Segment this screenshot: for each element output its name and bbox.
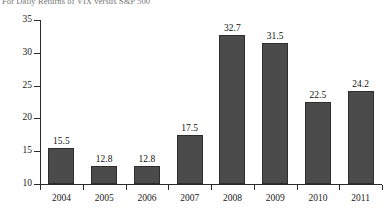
x-axis-tick-label: 2008 [211,193,253,203]
y-axis-tick-label: 25 [6,81,32,91]
y-axis-tick-label: 20 [6,113,32,123]
y-axis-line [40,20,41,185]
bar [91,166,117,184]
bar-value-label: 32.7 [212,23,252,33]
x-axis-tick [254,185,255,190]
y-axis-tick-label: 30 [6,48,32,58]
bar-value-label: 24.2 [341,79,381,89]
x-axis-tick [126,185,127,190]
x-axis-tick [382,185,383,190]
x-axis-tick-label: 2006 [126,193,168,203]
x-axis-tick [40,185,41,190]
bar [262,43,288,184]
y-axis-tick [34,118,40,119]
x-axis-tick [168,185,169,190]
x-axis-tick-label: 2010 [297,193,339,203]
bar-value-label: 22.5 [298,90,338,100]
x-axis-tick-label: 2004 [40,193,82,203]
bar [177,135,203,184]
x-axis-tick-label: 2005 [83,193,125,203]
x-axis-tick [339,185,340,190]
x-axis-tick-label: 2009 [254,193,296,203]
bar-value-label: 12.8 [84,154,124,164]
bar [219,35,245,184]
y-axis-tick-label: 15 [6,146,32,156]
x-axis-tick-label: 2007 [169,193,211,203]
bar [48,148,74,184]
y-axis-tick [34,86,40,87]
bar-chart: For Daily Returns of VIX versus S&P 500 … [0,0,390,214]
x-axis-tick [297,185,298,190]
bar [134,166,160,184]
bar-value-label: 17.5 [170,123,210,133]
bar-value-label: 31.5 [255,31,295,41]
chart-title: For Daily Returns of VIX versus S&P 500 [2,0,150,6]
bar [305,102,331,184]
bar-value-label: 12.8 [127,154,167,164]
y-axis-tick [34,53,40,54]
x-axis-tick [83,185,84,190]
x-axis-tick [211,185,212,190]
bar-value-label: 15.5 [41,136,81,146]
y-axis-tick [34,151,40,152]
y-axis-tick-label: 10 [6,179,32,189]
y-axis-tick-label: 35 [6,15,32,25]
bar [348,91,374,184]
x-axis-tick-label: 2011 [340,193,382,203]
y-axis-tick [34,20,40,21]
